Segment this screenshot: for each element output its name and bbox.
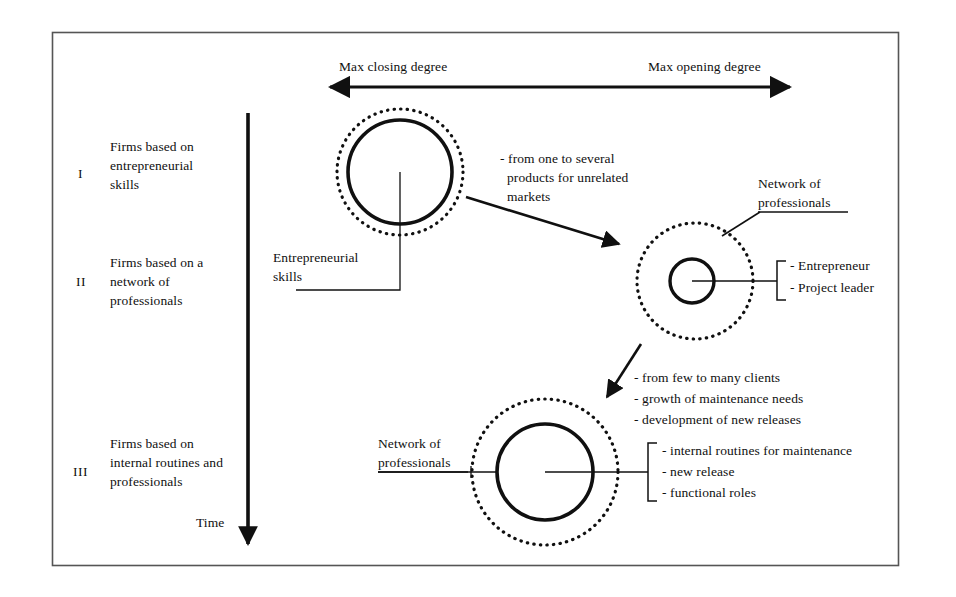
transition-1-line-3: markets bbox=[507, 187, 550, 206]
diagram-root: Max closing degree Max opening degree I … bbox=[0, 0, 956, 597]
max-closing-degree-label: Max closing degree bbox=[339, 57, 447, 76]
transition-1-line-1: - from one to several bbox=[500, 149, 615, 168]
transition-2-line-2: - growth of maintenance needs bbox=[634, 389, 803, 408]
stage3-items-bracket bbox=[648, 443, 657, 501]
stage2-role-entrepreneur: - Entrepreneur bbox=[790, 256, 870, 275]
stage2-outer-leader-line bbox=[722, 212, 760, 236]
stage-label-ii: Firms based on a network of professional… bbox=[110, 253, 203, 310]
stage3-item-internal-routines: - internal routines for maintenance bbox=[662, 441, 852, 460]
stage2-roles-bracket bbox=[777, 261, 786, 300]
stage-numeral-ii: II bbox=[76, 272, 86, 291]
transition-1-line-2: products for unrelated bbox=[507, 168, 628, 187]
stage2-outer-label: Network of professionals bbox=[758, 174, 831, 212]
stage-numeral-i: I bbox=[78, 164, 83, 183]
stage3-item-new-release: - new release bbox=[662, 462, 735, 481]
transition-2-line-3: - development of new releases bbox=[634, 410, 801, 429]
time-axis-label: Time bbox=[196, 513, 224, 532]
stage-numeral-iii: III bbox=[73, 462, 88, 481]
stage1-core-label: Entrepreneurial skills bbox=[273, 248, 358, 286]
stage3-item-functional-roles: - functional roles bbox=[662, 483, 756, 502]
stage3-outer-label: Network of professionals bbox=[378, 434, 451, 472]
stage-label-iii: Firms based on internal routines and pro… bbox=[110, 434, 223, 491]
transition-2-line-1: - from few to many clients bbox=[634, 368, 780, 387]
stage2-role-project-leader: - Project leader bbox=[790, 278, 874, 297]
max-opening-degree-label: Max opening degree bbox=[648, 57, 761, 76]
stage-label-i: Firms based on entrepreneurial skills bbox=[110, 137, 194, 194]
